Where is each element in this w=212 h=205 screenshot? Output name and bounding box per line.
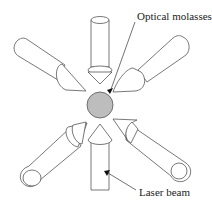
laser-beam-upper-right — [113, 36, 189, 92]
laser-beam-leader — [108, 173, 136, 190]
laser-beam-bottom — [88, 124, 112, 190]
laser-beam-upper-left — [14, 38, 86, 91]
laser-beam-lower-right — [113, 119, 191, 182]
optical-molasses-sphere — [87, 92, 113, 118]
molasses-diagram: Optical molasses Laser beam — [0, 0, 212, 205]
optical-molasses-arrowhead — [107, 88, 113, 94]
laser-beam-lower-left — [20, 122, 87, 187]
laser-beam-top — [88, 17, 112, 85]
optical-molasses-label: Optical molasses — [137, 10, 212, 22]
laser-beam-label: Laser beam — [139, 186, 190, 198]
